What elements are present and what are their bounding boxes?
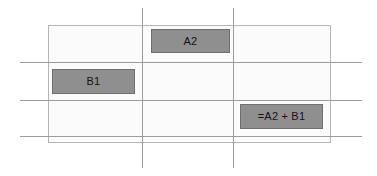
cell-formula-result[interactable]: =A2 + B1	[240, 104, 323, 129]
grid-hline-3-overlay	[20, 136, 362, 137]
diagram-canvas: A2 B1 =A2 + B1	[0, 0, 377, 176]
grid-vline-1-overlay	[142, 8, 143, 168]
cell-b1[interactable]: B1	[52, 69, 135, 94]
cell-a2[interactable]: A2	[151, 29, 230, 53]
grid-vline-2-overlay	[233, 8, 234, 168]
grid-hline-2-overlay	[20, 100, 362, 101]
grid-hline-1-overlay	[20, 62, 362, 63]
